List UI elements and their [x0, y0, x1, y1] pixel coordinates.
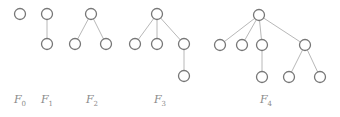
tree-node [101, 39, 112, 50]
label-subscript: 2 [94, 100, 98, 108]
label-subscript: 0 [22, 100, 26, 108]
tree-node [257, 72, 268, 83]
tree-node [300, 40, 311, 51]
tree-node [42, 39, 53, 50]
tree-node [215, 40, 226, 51]
label-subscript: 3 [162, 100, 166, 108]
nodes-layer [15, 9, 326, 83]
label-subscript: 1 [49, 100, 53, 108]
tree-node [257, 40, 268, 51]
tree-label-f3: F3 [154, 93, 166, 108]
tree-node [152, 39, 163, 50]
tree-label-f2: F2 [86, 93, 98, 108]
label-base: F [41, 93, 49, 106]
tree-node [130, 39, 141, 50]
tree-node [70, 39, 81, 50]
label-base: F [154, 93, 162, 106]
tree-node [152, 9, 163, 20]
tree-f0 [15, 9, 26, 20]
tree-node [179, 39, 190, 50]
label-base: F [14, 93, 22, 106]
label-base: F [86, 93, 94, 106]
tree-node [179, 71, 190, 82]
tree-f3 [130, 9, 190, 82]
tree-node [42, 9, 53, 20]
label-subscript: 4 [268, 100, 272, 108]
tree-label-f4: F4 [260, 93, 272, 108]
label-base: F [260, 93, 268, 106]
tree-f4 [215, 10, 326, 83]
tree-f2 [70, 9, 112, 50]
tree-label-f0: F0 [14, 93, 26, 108]
tree-node [237, 40, 248, 51]
tree-node [315, 72, 326, 83]
tree-label-f1: F1 [41, 93, 53, 108]
tree-node [254, 10, 265, 21]
tree-node [284, 72, 295, 83]
tree-node [86, 9, 97, 20]
tree-node [15, 9, 26, 20]
